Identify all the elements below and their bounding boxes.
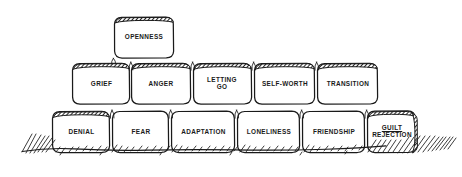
- blocks-illustration: [0, 0, 462, 177]
- block-fear: [113, 111, 169, 153]
- block-transition: [318, 63, 378, 104]
- block-grief: [73, 63, 130, 104]
- block-adaptation: [172, 111, 235, 153]
- diagram-canvas: OPENNESS GRIEF ANGER LETTING GO SELF-WOR…: [0, 0, 462, 177]
- block-letting-go: [194, 63, 252, 104]
- block-openness: [115, 17, 174, 58]
- block-anger: [132, 63, 191, 104]
- block-self-worth: [255, 63, 315, 104]
- block-loneliness: [238, 111, 300, 153]
